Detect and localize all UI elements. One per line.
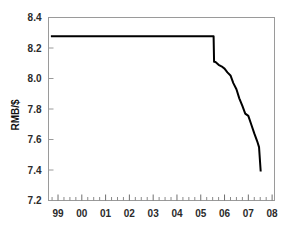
x-tick-label-05: 05 bbox=[195, 208, 207, 219]
x-tick-label-08: 08 bbox=[267, 208, 279, 219]
x-tick-label-02: 02 bbox=[124, 208, 136, 219]
x-tick-label-01: 01 bbox=[100, 208, 112, 219]
x-tick-label-06: 06 bbox=[219, 208, 231, 219]
chart-container: 7.27.47.67.88.08.28.4 990001020304050607… bbox=[0, 0, 293, 233]
y-tick-label-7.4: 7.4 bbox=[28, 165, 42, 176]
y-tick-label-7.8: 7.8 bbox=[28, 104, 42, 115]
y-tick-label-7.2: 7.2 bbox=[28, 195, 42, 206]
x-tick-label-04: 04 bbox=[171, 208, 183, 219]
x-tick-label-00: 00 bbox=[76, 208, 88, 219]
x-tick-label-03: 03 bbox=[148, 208, 160, 219]
x-tick-label-99: 99 bbox=[52, 208, 64, 219]
x-tick-label-07: 07 bbox=[243, 208, 255, 219]
y-tick-label-8.0: 8.0 bbox=[28, 73, 42, 84]
line-chart: 7.27.47.67.88.08.28.4 990001020304050607… bbox=[0, 0, 293, 233]
y-tick-label-8.2: 8.2 bbox=[28, 43, 42, 54]
y-tick-label-7.6: 7.6 bbox=[28, 134, 42, 145]
y-tick-label-8.4: 8.4 bbox=[28, 12, 42, 23]
y-axis-title: RMB/$ bbox=[10, 99, 21, 131]
